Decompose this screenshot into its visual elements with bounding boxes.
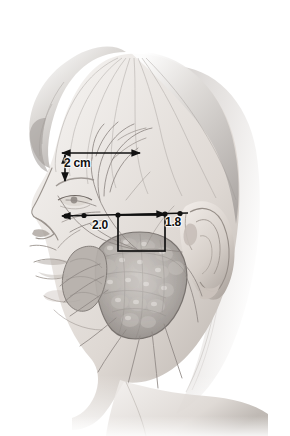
measure-label-2cm: 2 cm (64, 157, 91, 169)
face-anatomy-artwork (0, 0, 290, 436)
medical-illustration-figure: 2 cm 2.0 1.8 (0, 0, 290, 436)
measure-label-posterior: 1.8 (165, 216, 181, 228)
measure-label-anterior: 2.0 (92, 219, 108, 231)
